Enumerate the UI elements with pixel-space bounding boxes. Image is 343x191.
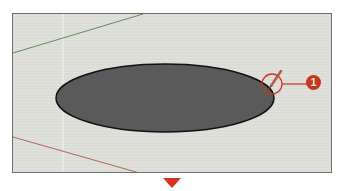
down-arrow-icon [163, 178, 181, 188]
red-axis-line [13, 137, 143, 173]
green-axis-line [13, 14, 143, 53]
callout-badge: 1 [306, 75, 321, 90]
viewport-canvas [13, 14, 332, 173]
drawing-viewport[interactable] [12, 13, 332, 173]
ellipse-shape[interactable] [56, 64, 274, 132]
